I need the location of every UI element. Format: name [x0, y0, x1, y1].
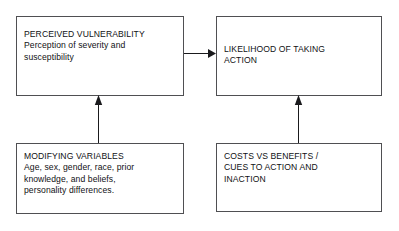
arrow-modifying-variables-to-perceived-vulnerability	[95, 95, 102, 143]
diagram-canvas: PERCEIVED VULNERABILITY Perception of se…	[0, 0, 399, 231]
node-costs-vs-benefits-label: COSTS VS BENEFITS / CUES TO ACTION AND I…	[224, 151, 376, 185]
node-likelihood-of-taking-action-label: LIKELIHOOD OF TAKING ACTION	[224, 44, 376, 67]
node-perceived-vulnerability-label: PERCEIVED VULNERABILITY Perception of se…	[24, 29, 178, 63]
node-modifying-variables-label: MODIFYING VARIABLES Age, sex, gender, ra…	[24, 151, 180, 197]
arrow-costs-benefits-to-likelihood	[295, 95, 302, 143]
arrow-perceived-vulnerability-to-likelihood	[184, 49, 216, 58]
